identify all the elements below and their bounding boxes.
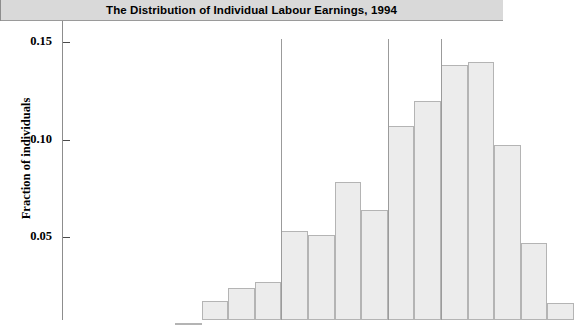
bars-layer <box>0 21 503 320</box>
histogram-bar <box>335 182 362 320</box>
histogram-bar <box>202 301 229 320</box>
histogram-bar <box>361 210 388 320</box>
reference-line-1 <box>281 39 282 320</box>
reference-line-3 <box>441 39 442 320</box>
plot-area: Fraction of individuals 0.050.100.15 <box>0 21 503 320</box>
histogram-bar <box>494 145 521 320</box>
histogram-bar <box>388 126 415 320</box>
histogram-bar <box>547 303 574 320</box>
histogram-bar <box>175 323 202 325</box>
page-title: The Distribution of Individual Labour Ea… <box>0 0 503 20</box>
histogram-bar <box>468 62 495 321</box>
histogram-bar <box>255 282 282 320</box>
reference-line-2 <box>388 39 389 320</box>
histogram-bar <box>281 231 308 320</box>
histogram-bar <box>228 288 255 320</box>
histogram-bar <box>441 65 468 320</box>
frame-edge <box>0 0 1 21</box>
histogram-bar <box>521 243 548 320</box>
chart-title-bar: The Distribution of Individual Labour Ea… <box>0 0 503 21</box>
histogram-bar <box>414 101 441 321</box>
histogram-bar <box>308 235 335 320</box>
